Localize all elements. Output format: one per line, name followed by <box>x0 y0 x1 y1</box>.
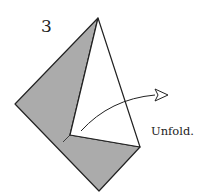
origami-diagram: 3 Unfold. <box>0 0 210 193</box>
fold-illustration <box>0 0 210 193</box>
instruction-caption: Unfold. <box>151 124 194 138</box>
step-number: 3 <box>41 16 52 36</box>
arrow-head-icon <box>155 89 168 101</box>
